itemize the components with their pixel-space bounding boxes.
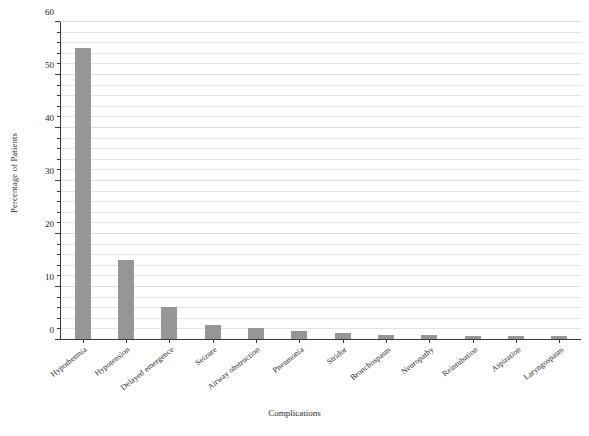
x-tick-mark: [343, 339, 344, 343]
x-tick-label: Seizure: [194, 345, 219, 367]
y-tick-label: 20: [28, 219, 54, 229]
bar[interactable]: [75, 48, 91, 340]
x-axis-tick-labels: HypothermiaHypotensionDelayed emergenceS…: [61, 345, 582, 407]
bar[interactable]: [161, 307, 177, 339]
bar-chart-figure: Percentage of Patients 0102030405060 Hyp…: [0, 0, 589, 436]
y-axis-title: Percentage of Patients: [4, 0, 24, 345]
bar-slot: [321, 22, 364, 339]
y-tick-label: 30: [28, 166, 54, 176]
x-tick-label-slot: Pneumonia: [278, 345, 321, 407]
y-tick-label: 50: [28, 60, 54, 70]
x-tick-mark: [126, 339, 127, 343]
x-axis-title: Complications: [0, 408, 589, 418]
x-tick-mark: [516, 339, 517, 343]
x-tick-label: Stridor: [325, 345, 349, 366]
x-tick-mark: [429, 339, 430, 343]
bar-slot: [538, 22, 581, 339]
bar[interactable]: [205, 325, 221, 339]
x-tick-mark: [299, 339, 300, 343]
bar-slot: [364, 22, 407, 339]
bar-slot: [104, 22, 147, 339]
bar-slot: [278, 22, 321, 339]
bar-series: [61, 22, 581, 339]
x-tick-mark: [169, 339, 170, 343]
bar[interactable]: [248, 328, 264, 339]
bar-slot: [191, 22, 234, 339]
y-tick-label: 10: [28, 272, 54, 282]
y-tick-label: 0: [28, 325, 54, 335]
bar-slot: [451, 22, 494, 339]
x-axis-title-text: Complications: [268, 408, 321, 418]
plot-area: 0102030405060: [60, 22, 581, 340]
y-tick-label: 60: [28, 7, 54, 17]
x-axis-line: [60, 339, 581, 340]
x-tick-mark: [256, 339, 257, 343]
bar-slot: [408, 22, 451, 339]
x-tick-label-slot: Reintubation: [452, 345, 495, 407]
x-tick-label: Hypothermia: [49, 345, 89, 379]
x-tick-label-slot: Airway obstruction: [235, 345, 278, 407]
x-tick-mark: [213, 339, 214, 343]
x-tick-mark: [559, 339, 560, 343]
bar-slot: [148, 22, 191, 339]
bar[interactable]: [118, 260, 134, 340]
bar-slot: [494, 22, 537, 339]
y-axis-title-text: Percentage of Patients: [9, 133, 19, 213]
x-tick-label: Aspiration: [490, 345, 523, 374]
x-tick-mark: [83, 339, 84, 343]
x-tick-label-slot: Delayed emergence: [148, 345, 191, 407]
x-tick-label-slot: Bronchospasm: [365, 345, 408, 407]
y-tick-label: 40: [28, 113, 54, 123]
bar[interactable]: [291, 331, 307, 339]
x-tick-mark: [386, 339, 387, 343]
bar-slot: [61, 22, 104, 339]
bar-slot: [234, 22, 277, 339]
x-tick-label-slot: Laryngospasm: [539, 345, 582, 407]
x-tick-mark: [473, 339, 474, 343]
